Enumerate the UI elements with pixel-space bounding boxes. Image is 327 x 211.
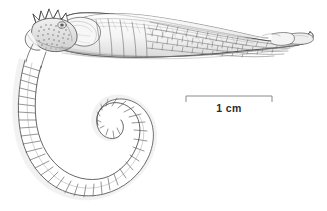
head-plate <box>32 18 78 51</box>
eye <box>58 22 66 28</box>
tail-keel-ridge <box>27 63 144 188</box>
specimen-illustration <box>0 0 327 211</box>
figure-canvas: 1 cm <box>0 0 327 211</box>
scale-bar-label: 1 cm <box>186 102 272 114</box>
